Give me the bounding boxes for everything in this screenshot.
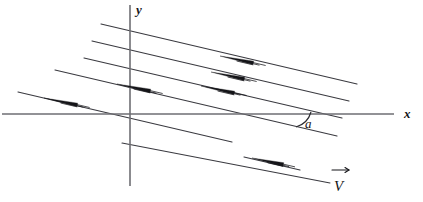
- angle-label: a: [305, 116, 312, 131]
- y-axis-label: y: [134, 2, 142, 17]
- x-axis-label: x: [403, 106, 411, 121]
- diagram-canvas: x y a V: [0, 0, 423, 202]
- flow-field-diagram: x y a V: [0, 0, 423, 202]
